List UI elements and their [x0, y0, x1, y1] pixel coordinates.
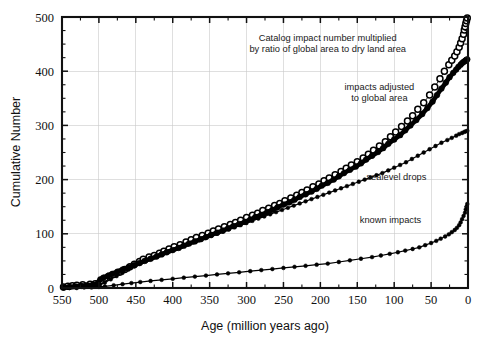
data-point-small: [251, 219, 255, 223]
data-point-small: [403, 249, 407, 253]
data-point-small: [443, 235, 447, 239]
data-point-small: [270, 267, 274, 271]
data-point-small: [396, 250, 400, 254]
data-point-small: [304, 264, 308, 268]
annotation-impacts-adjusted: impacts adjusted: [345, 82, 415, 92]
data-point-small: [182, 276, 186, 280]
data-point-filled: [309, 189, 315, 195]
data-point-small: [209, 234, 213, 238]
annotation-known-impacts: known impacts: [360, 215, 422, 225]
data-point-filled: [391, 137, 397, 143]
y-tick-label: 200: [35, 173, 54, 187]
chart-canvas: 5505004504003503002502001501005000100200…: [0, 0, 488, 354]
data-point-small: [416, 154, 420, 158]
data-point-filled: [353, 164, 359, 170]
data-point-small: [434, 144, 438, 148]
data-point-small: [440, 141, 444, 145]
data-point-small: [138, 280, 142, 284]
data-point-open: [441, 68, 447, 74]
data-point-filled: [325, 180, 331, 186]
data-point-small: [410, 157, 414, 161]
data-point-small: [193, 275, 197, 279]
data-point-filled: [358, 160, 364, 166]
x-tick-label: 500: [90, 293, 109, 307]
data-point-small: [274, 210, 278, 214]
data-point-filled: [380, 145, 386, 151]
x-axis-title: Age (million years ago): [201, 319, 329, 333]
data-point-open: [437, 76, 443, 82]
data-point-small: [127, 268, 131, 272]
series-1: [60, 15, 470, 290]
data-point-small: [282, 266, 286, 270]
data-point-small: [280, 208, 284, 212]
annotation-sealevel-drops: sealevel drops: [366, 172, 426, 182]
data-point-filled: [408, 123, 414, 129]
data-point-small: [428, 147, 432, 151]
data-point-filled: [275, 204, 281, 210]
chart-figure: 5505004504003503002502001501005000100200…: [0, 0, 488, 354]
data-point-small: [327, 191, 331, 195]
data-point-filled: [434, 92, 440, 98]
data-point-small: [429, 241, 433, 245]
annotation-catalog-impact: Catalog impact number multiplied: [259, 33, 397, 43]
axis-ticks: [62, 17, 468, 288]
data-point-small: [109, 277, 113, 281]
data-point-small: [226, 271, 230, 275]
data-point-filled: [303, 191, 309, 197]
data-point-small: [156, 254, 160, 258]
data-point-small: [144, 259, 148, 263]
y-axis-title: Cumulative Number: [9, 97, 23, 207]
data-point-filled: [397, 132, 403, 138]
x-tick-label: 350: [200, 293, 219, 307]
y-tick-label: 0: [48, 282, 54, 296]
data-point-small: [388, 252, 392, 256]
annotation-impacts-adjusted-line2: to global area: [351, 93, 408, 103]
data-point-small: [115, 274, 119, 278]
data-point-small: [337, 260, 341, 264]
data-point-small: [422, 151, 426, 155]
data-point-filled: [425, 105, 431, 111]
data-point-small: [121, 282, 125, 286]
series-line-open: [63, 18, 467, 287]
x-tick-label: 200: [311, 293, 330, 307]
data-point-small: [423, 243, 427, 247]
data-point-small: [398, 163, 402, 167]
data-point-small: [203, 236, 207, 240]
data-point-small: [316, 195, 320, 199]
y-tick-label: 100: [35, 227, 54, 241]
data-point-open: [432, 84, 438, 90]
grid-lines: [62, 17, 468, 288]
data-point-small: [417, 245, 421, 249]
data-point-filled: [292, 197, 298, 203]
data-point-small: [321, 193, 325, 197]
data-point-small: [248, 269, 252, 273]
data-point-small: [215, 232, 219, 236]
data-point-filled: [286, 199, 292, 205]
data-point-filled: [413, 117, 419, 123]
data-point-filled: [281, 202, 287, 208]
data-point-filled: [297, 194, 303, 200]
data-point-small: [259, 268, 263, 272]
data-point-filled: [331, 177, 337, 183]
data-point-filled: [402, 127, 408, 133]
data-point-small: [192, 241, 196, 245]
x-tick-label: 150: [348, 293, 367, 307]
data-point-small: [411, 247, 415, 251]
data-point-small: [245, 221, 249, 225]
data-point-filled: [419, 111, 425, 117]
x-tick-label: 450: [126, 293, 145, 307]
data-point-small: [256, 217, 260, 221]
data-point-small: [103, 281, 107, 285]
plot-frame-rect: [62, 17, 468, 288]
data-point-small: [160, 278, 164, 282]
x-tick-label: 300: [237, 293, 256, 307]
x-tick-label: 400: [163, 293, 182, 307]
data-point-filled: [369, 153, 375, 159]
data-point-small: [112, 283, 116, 287]
data-point-small: [359, 257, 363, 261]
data-point-small: [237, 270, 241, 274]
data-point-filled: [375, 149, 381, 155]
x-tick-label: 100: [385, 293, 404, 307]
data-series-layer: [60, 15, 470, 290]
x-tick-label: 0: [465, 293, 471, 307]
